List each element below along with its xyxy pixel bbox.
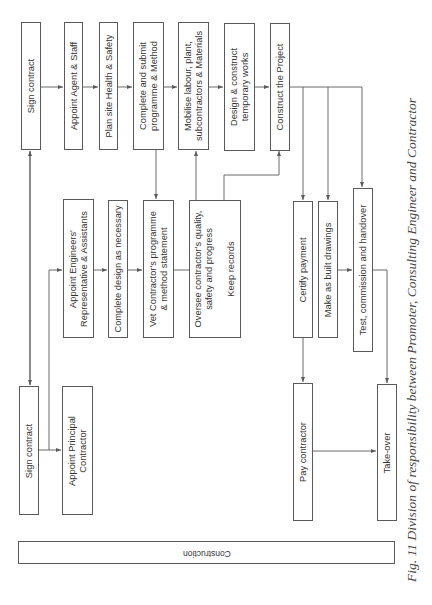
box-mobilise-resources: Mobilise labour, plant, subcontractors &… [178,22,209,150]
box-certify-payment: Certify payment [293,201,313,338]
box-submit-programme: Complete and submit programme & Method [133,22,164,150]
box-label: Construct the Project [275,44,286,131]
box-label: Take-over [382,432,393,473]
box-label: Appoint Agent & Staff [68,42,79,130]
box-complete-design: Complete design as necessary [108,200,128,338]
box-label: Plan site Health & Safety [103,35,114,138]
figure-caption: Fig. 11 Division of responsibility betwe… [404,98,420,582]
box-label: Make as built drawings [323,222,334,317]
construction-phase-bar: Construction [18,541,395,564]
box-plan-health-safety: Plan site Health & Safety [99,22,118,150]
box-appoint-engineers: Appoint Engineers' Representative & Assi… [63,199,94,338]
box-test-commission-handover: Test, commission and handover [353,188,373,352]
phase-label: Construction [183,547,231,558]
box-label: Mobilise labour, plant, subcontractors &… [183,31,205,141]
box-appoint-principal-contractor: Appoint Principal Contractor [62,386,93,515]
box-label: Pay contractor [298,422,309,482]
box-appoint-agent-staff: Appoint Agent & Staff [64,22,83,150]
box-label: Oversee contractor's quality, safety and… [193,211,237,328]
box-label: Appoint Engineers' Representative & Assi… [68,211,90,327]
box-construct-project: Construct the Project [270,23,290,151]
box-as-built-drawings: Make as built drawings [318,201,338,338]
box-vet-programme: Vet Contractor's programme & method stat… [143,200,174,338]
box-contractor-sign-contract: Sign contract [21,22,41,150]
box-label: Appoint Principal Contractor [67,416,89,486]
box-label: Test, commission and handover [358,205,369,336]
box-promoter-sign-contract: Sign contract [19,386,39,515]
box-take-over: Take-over [377,384,397,521]
box-oversee-contractor: Oversee contractor's quality, safety and… [189,200,241,338]
box-label: Vet Contractor's programme & method stat… [148,211,170,327]
box-label: Design & construct temporary works [229,48,251,126]
box-label: Certify payment [298,237,309,302]
box-pay-contractor: Pay contractor [293,383,313,521]
box-label: Complete design as necessary [113,205,124,332]
box-label: Complete and submit programme & Method [138,41,160,131]
box-label: Sign contract [24,423,35,477]
box-temporary-works: Design & construct temporary works [224,23,255,151]
box-label: Sign contract [26,59,37,113]
